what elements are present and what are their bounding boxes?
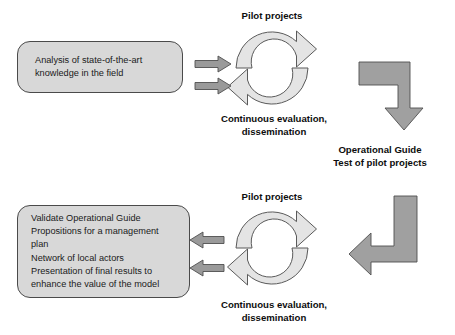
elbow-arrow-left bbox=[349, 196, 417, 275]
arrow-evaluation-to-outcomes bbox=[190, 260, 224, 276]
cycle-top-upper-arrow bbox=[236, 31, 317, 68]
elbow-arrow-down bbox=[359, 62, 423, 130]
cycle-top-lower-arrow bbox=[228, 68, 309, 105]
process-flow-diagram: Analysis of state-of-the-art knowledge i… bbox=[0, 0, 455, 335]
arrow-analysis-to-pilot bbox=[195, 56, 231, 72]
cycle-bottom-upper-arrow bbox=[236, 211, 317, 248]
arrow-shapes-layer bbox=[0, 0, 455, 335]
cycle-bottom-lower-arrow bbox=[228, 248, 309, 285]
arrow-pilot-to-outcomes bbox=[190, 232, 224, 248]
arrow-analysis-to-evaluation bbox=[195, 78, 231, 94]
